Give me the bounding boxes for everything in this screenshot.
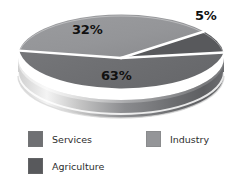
pie-chart-figure: 32% 5% 63% Services Industry Agriculture [0,0,242,186]
legend-swatch-icon-agriculture [28,158,43,174]
legend-item-agriculture[interactable]: Agriculture [28,158,104,174]
legend-label-agriculture: Agriculture [52,161,104,172]
chart-legend: Services Industry Agriculture [0,128,242,186]
pie-chart-graphic: 32% 5% 63% [0,0,242,132]
legend-item-industry[interactable]: Industry [146,131,209,147]
legend-swatch-icon-industry [146,131,161,147]
slice-label-industry: 32% [72,22,103,37]
slice-label-services: 63% [101,68,132,83]
legend-label-services: Services [52,134,92,145]
slice-label-agriculture: 5% [195,8,217,23]
legend-swatch-icon-services [28,131,43,147]
legend-label-industry: Industry [170,134,209,145]
legend-item-services[interactable]: Services [28,131,92,147]
